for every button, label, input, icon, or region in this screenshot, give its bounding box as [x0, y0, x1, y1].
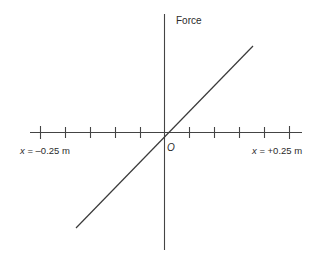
origin-label: O [167, 143, 175, 153]
y-axis-title: Force [176, 16, 202, 26]
graph-canvas [0, 0, 336, 259]
x-axis-label-positive: x = +0.25 m [252, 146, 302, 156]
variable-x: x [252, 145, 257, 156]
variable-x: x [20, 145, 25, 156]
x-axis-label-negative: x = –0.25 m [20, 146, 70, 156]
force-displacement-figure: Force O x = –0.25 m x = +0.25 m [0, 0, 336, 259]
